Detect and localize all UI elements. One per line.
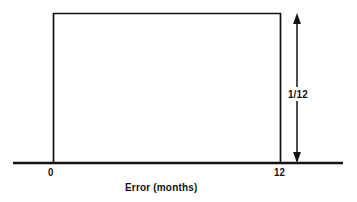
x-tick-label-0: 0 (48, 166, 54, 178)
x-tick-label-12: 12 (274, 166, 285, 178)
x-axis-caption: Error (months) (125, 181, 197, 193)
figure-container: 0 12 1/12 Error (months) (0, 0, 357, 202)
density-height-label: 1/12 (286, 87, 310, 101)
